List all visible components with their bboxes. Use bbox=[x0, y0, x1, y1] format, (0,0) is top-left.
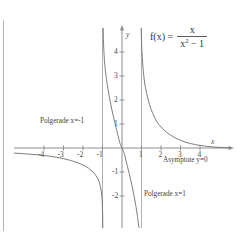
x-tick-label-1: 1 bbox=[139, 151, 143, 159]
x-tick-label--4: -4 bbox=[38, 151, 44, 159]
x-tick-label--2: -2 bbox=[77, 151, 83, 159]
annotation-pole-left: Polgerade x=-1 bbox=[40, 118, 84, 125]
curve-branch-middle bbox=[103, 28, 139, 228]
y-tick-label-2: 2 bbox=[114, 96, 118, 104]
y-tick-label--1: -1 bbox=[112, 168, 118, 176]
formula-lhs: f(x) = bbox=[150, 31, 173, 42]
formula-numerator: x bbox=[184, 24, 201, 36]
function-formula: f(x) = x x2 − 1 bbox=[150, 24, 207, 49]
curve-branch-left bbox=[14, 153, 103, 228]
annotation-asymptote: Asymptote y=0 bbox=[163, 157, 208, 164]
x-tick-label--1: -1 bbox=[97, 151, 103, 159]
formula-denominator-exponent: 2 bbox=[185, 37, 188, 44]
x-tick-label-2: 2 bbox=[159, 151, 163, 159]
function-graph-figure: f(x) = x x2 − 1 y x -4 -3 -2 -1 1 2 3 4 … bbox=[0, 0, 243, 246]
y-axis-arrow bbox=[120, 25, 124, 31]
y-tick-label--2: -2 bbox=[112, 192, 118, 200]
y-tick-label-1: 1 bbox=[114, 120, 118, 128]
formula-fraction: x x2 − 1 bbox=[177, 24, 207, 49]
formula-denominator-rest: − 1 bbox=[191, 38, 204, 49]
x-axis-label: x bbox=[211, 138, 214, 146]
y-axis-label: y bbox=[126, 31, 129, 39]
x-tick-label--3: -3 bbox=[58, 151, 64, 159]
y-tick-label-4: 4 bbox=[114, 48, 118, 56]
y-tick-label-3: 3 bbox=[114, 72, 118, 80]
formula-denominator: x2 − 1 bbox=[178, 37, 206, 49]
annotation-pole-right: Polgerade x=1 bbox=[144, 191, 186, 198]
